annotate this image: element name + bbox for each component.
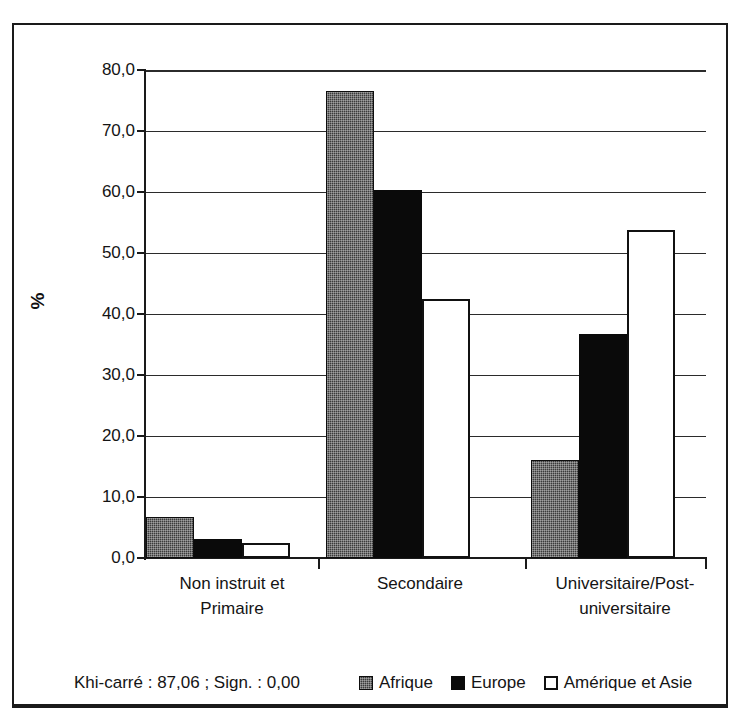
- x-axis-category-label: Universitaire/Post-universitaire: [515, 572, 735, 621]
- x-axis-category-label-line: Non instruit et: [122, 572, 342, 597]
- chart-legend: AfriqueEuropeAmérique et Asie: [359, 673, 692, 693]
- y-axis-tick-label: 60,0: [65, 182, 135, 202]
- bar-amerique-group-2: [422, 299, 470, 558]
- y-axis-tick-label: 50,0: [65, 243, 135, 263]
- bar-afrique-group-2: [326, 91, 374, 558]
- x-axis-category-separator: [318, 558, 320, 569]
- y-axis-tick-label: 10,0: [65, 487, 135, 507]
- plot-area: [146, 70, 706, 558]
- y-axis-tick-label: 30,0: [65, 365, 135, 385]
- y-axis-tick: [137, 496, 145, 498]
- chart-footer: Khi-carré : 87,06 ; Sign. : 0,00 Afrique…: [14, 660, 726, 706]
- y-axis-tick: [137, 557, 145, 559]
- x-axis-category-label-line: Primaire: [122, 597, 342, 622]
- y-axis-tick: [137, 374, 145, 376]
- legend-swatch-icon: [359, 676, 373, 690]
- bar-afrique-group-3: [531, 460, 579, 558]
- legend-label: Amérique et Asie: [564, 673, 693, 693]
- x-axis-category-label-line: Secondaire: [310, 572, 530, 597]
- gridline: [146, 192, 706, 193]
- x-axis-end-tick: [705, 558, 707, 569]
- bar-afrique-group-1: [146, 517, 194, 558]
- bar-europe-group-1: [194, 539, 242, 558]
- x-axis-category-separator: [525, 558, 527, 569]
- y-axis-title: %: [27, 281, 49, 321]
- y-axis-tick-label: 40,0: [65, 304, 135, 324]
- legend-item-europe[interactable]: Europe: [451, 673, 526, 693]
- y-axis-tick: [137, 313, 145, 315]
- legend-item-afrique[interactable]: Afrique: [359, 673, 433, 693]
- y-axis-tick-label: 20,0: [65, 426, 135, 446]
- y-axis-tick-label: 70,0: [65, 121, 135, 141]
- gridline: [146, 70, 706, 72]
- x-axis-category-label: Secondaire: [310, 572, 530, 597]
- gridline: [146, 131, 706, 132]
- y-axis-tick: [137, 191, 145, 193]
- x-axis-category-label-line: Universitaire/Post-: [515, 572, 735, 597]
- bar-amerique-group-1: [242, 543, 290, 558]
- legend-label: Europe: [471, 673, 526, 693]
- x-axis-category-label: Non instruit etPrimaire: [122, 572, 342, 621]
- y-axis-tick: [137, 435, 145, 437]
- legend-item-amerique[interactable]: Amérique et Asie: [544, 673, 693, 693]
- y-axis-tick: [137, 130, 145, 132]
- legend-swatch-icon: [451, 676, 465, 690]
- chi-square-annotation: Khi-carré : 87,06 ; Sign. : 0,00: [74, 673, 300, 693]
- y-axis-tick: [137, 69, 145, 71]
- legend-label: Afrique: [379, 673, 433, 693]
- bar-amerique-group-3: [627, 230, 675, 558]
- chart-figure: % 0,010,020,030,040,050,060,070,080,0 Kh…: [0, 0, 739, 721]
- legend-swatch-icon: [544, 676, 558, 690]
- gridline: [146, 253, 706, 254]
- y-axis-tick: [137, 252, 145, 254]
- bar-europe-group-3: [579, 334, 627, 558]
- y-axis-tick-label: 0,0: [65, 548, 135, 568]
- x-axis-category-label-line: universitaire: [515, 597, 735, 622]
- y-axis-tick-label: 80,0: [65, 60, 135, 80]
- bar-europe-group-2: [374, 190, 422, 558]
